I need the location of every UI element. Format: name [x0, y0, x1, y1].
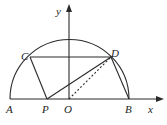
segment-od-dashed	[69, 57, 111, 99]
point-a-label: A	[5, 103, 13, 115]
y-axis-label: y	[55, 5, 61, 17]
x-axis-label: x	[147, 103, 153, 115]
y-axis-arrow-icon	[66, 4, 72, 12]
geometry-diagram: y x A P O B C D	[0, 0, 167, 125]
point-p-label: P	[41, 103, 49, 115]
x-axis-arrow-icon	[156, 96, 164, 102]
segment-pd	[47, 57, 111, 99]
point-d-label: D	[110, 47, 119, 59]
point-b-label: B	[125, 103, 132, 115]
segment-db	[111, 57, 129, 99]
point-c-label: C	[21, 50, 29, 62]
segment-cp	[30, 57, 47, 99]
point-o-label: O	[64, 103, 72, 115]
